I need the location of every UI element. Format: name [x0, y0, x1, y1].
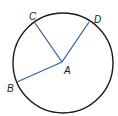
radius-ab	[17, 62, 62, 82]
label-a: A	[63, 65, 71, 76]
circle-diagram: C D B A	[0, 0, 118, 116]
radius-ac	[35, 23, 62, 62]
radius-ad	[62, 22, 89, 62]
label-b: B	[7, 83, 14, 94]
label-d: D	[94, 14, 101, 25]
label-c: C	[29, 11, 37, 22]
circle	[13, 13, 113, 113]
